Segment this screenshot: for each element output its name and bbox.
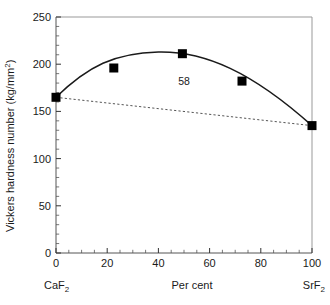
y-tick-label: 50: [39, 200, 51, 212]
x-tick-label: 40: [152, 257, 164, 269]
chart-figure: 0 50 100 150 200 250 0 20 40 60 80 100: [0, 0, 330, 305]
y-tick-label: 150: [33, 105, 51, 117]
data-point-marker: [308, 121, 317, 130]
x-axis-tick-labels: 0 20 40 60 80 100: [53, 257, 321, 269]
data-point-marker: [238, 77, 247, 86]
data-point-marker: [109, 64, 118, 73]
x-tick-label: 60: [203, 257, 215, 269]
svg-text:CaF2: CaF2: [44, 279, 70, 294]
y-axis-title-tail: ): [4, 60, 16, 64]
y-axis-title-base: Vickers hardness number (kg/mm: [4, 68, 16, 232]
svg-text:Vickers hardness number (kg/mm: Vickers hardness number (kg/mm2): [3, 60, 16, 232]
svg-text:SrF2: SrF2: [303, 279, 326, 294]
data-point-marker: [178, 49, 187, 58]
linear-rule-of-mixtures-line: [56, 97, 312, 125]
curve-annotation-58: 58: [178, 75, 190, 87]
x-tick-label: 80: [255, 257, 267, 269]
y-axis-title: Vickers hardness number (kg/mm2): [3, 60, 16, 232]
y-axis-major-ticks: [56, 17, 61, 253]
left-endmember-subscript: 2: [65, 285, 70, 294]
x-axis-left-endmember-label: CaF2: [44, 279, 70, 294]
data-point-markers: [52, 49, 317, 130]
right-endmember-subscript: 2: [321, 285, 326, 294]
left-endmember-base: CaF: [44, 279, 65, 291]
fitted-hardness-curve: [56, 52, 312, 126]
x-axis-right-endmember-label: SrF2: [303, 279, 326, 294]
x-tick-label: 20: [101, 257, 113, 269]
x-axis-title: Per cent: [172, 279, 213, 291]
vickers-hardness-chart: 0 50 100 150 200 250 0 20 40 60 80 100: [0, 0, 330, 305]
y-tick-label: 250: [33, 11, 51, 23]
x-tick-label: 100: [303, 257, 321, 269]
y-axis-tick-labels: 0 50 100 150 200 250: [33, 11, 51, 259]
y-tick-label: 100: [33, 153, 51, 165]
data-point-marker: [52, 93, 61, 102]
y-tick-label: 0: [45, 247, 51, 259]
x-tick-label: 0: [53, 257, 59, 269]
right-endmember-base: SrF: [303, 279, 321, 291]
y-tick-label: 200: [33, 58, 51, 70]
